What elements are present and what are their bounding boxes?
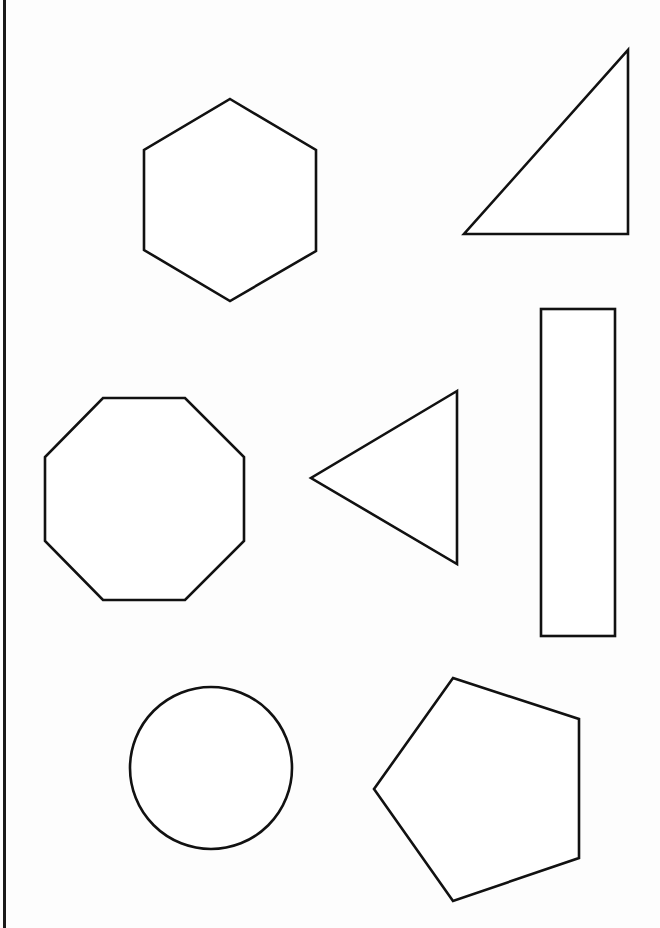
rectangle-shape bbox=[541, 309, 615, 636]
octagon-shape bbox=[45, 398, 244, 600]
circle-shape bbox=[130, 687, 292, 849]
hexagon-shape bbox=[144, 99, 316, 301]
right-triangle-shape bbox=[464, 50, 628, 234]
worksheet-page bbox=[0, 0, 660, 928]
left-triangle-shape bbox=[311, 391, 457, 564]
pentagon-shape bbox=[374, 678, 579, 901]
shapes-canvas bbox=[0, 0, 660, 928]
